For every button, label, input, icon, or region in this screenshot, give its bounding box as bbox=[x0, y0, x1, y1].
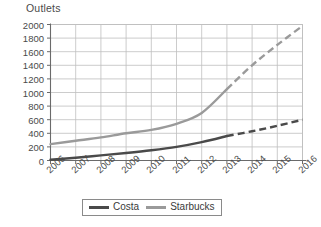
x-tick-label: 2014 bbox=[245, 152, 268, 174]
outlets-line-chart: Outlets 02004006008001000120014001600180… bbox=[0, 0, 321, 227]
x-tick-label: 2006 bbox=[44, 152, 67, 174]
legend-label: Starbucks bbox=[170, 202, 214, 212]
x-tick-label: 2010 bbox=[144, 152, 167, 174]
x-tick-label: 2012 bbox=[195, 152, 218, 174]
x-tick-label: 2009 bbox=[119, 152, 142, 174]
x-axis-tick-labels: 2006200720082009201020112012201320142015… bbox=[0, 0, 321, 227]
legend-label: Costa bbox=[113, 202, 139, 212]
legend-swatch-icon bbox=[89, 206, 109, 209]
legend-item-starbucks[interactable]: Starbucks bbox=[146, 202, 214, 212]
x-tick-label: 2011 bbox=[170, 153, 193, 175]
x-tick-label: 2013 bbox=[220, 152, 243, 174]
legend-swatch-icon bbox=[146, 206, 166, 209]
x-tick-label: 2016 bbox=[296, 152, 319, 174]
x-tick-label: 2015 bbox=[270, 152, 293, 174]
x-tick-label: 2007 bbox=[69, 152, 92, 174]
x-tick-label: 2008 bbox=[94, 152, 117, 174]
chart-legend: CostaStarbucks bbox=[82, 199, 222, 216]
legend-item-costa[interactable]: Costa bbox=[89, 202, 139, 212]
